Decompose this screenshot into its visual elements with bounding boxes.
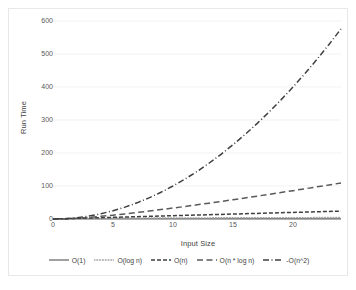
y-axis-title: Run Time [19, 88, 28, 148]
y-tick-label: 600 [25, 17, 53, 24]
legend-label: O(log n) [117, 257, 142, 264]
legend-swatch-icon [94, 256, 114, 264]
legend-item-1[interactable]: O(1) [49, 256, 86, 264]
x-tick-label: 20 [278, 221, 308, 228]
legend-swatch-icon [263, 256, 283, 264]
legend-item-4[interactable]: O(n * log n) [197, 256, 255, 264]
chart-legend: O(1)O(log n)O(n)O(n * log n)-O(n^2) [19, 252, 339, 268]
legend-swatch-icon [49, 256, 69, 264]
x-tick-label: 5 [98, 221, 128, 228]
legend-label: O(1) [72, 257, 86, 264]
x-tick-label: 15 [218, 221, 248, 228]
legend-label: -O(n^2) [286, 257, 309, 264]
series-line-4 [53, 183, 341, 219]
chart-card: 0100200300400500600 Run Time Input Size … [8, 8, 348, 276]
legend-swatch-icon [197, 256, 217, 264]
legend-item-5[interactable]: -O(n^2) [263, 256, 309, 264]
x-axis-title: Input Size [53, 239, 343, 248]
plot-area: 0100200300400500600 Run Time Input Size … [9, 9, 349, 277]
y-tick-label: 200 [25, 149, 53, 156]
legend-item-3[interactable]: O(n) [151, 256, 188, 264]
legend-label: O(n) [174, 257, 188, 264]
legend-item-2[interactable]: O(log n) [94, 256, 142, 264]
y-tick-label: 500 [25, 50, 53, 57]
y-axis-ticks: 0100200300400500600 [23, 9, 53, 277]
chart-canvas [9, 9, 349, 277]
legend-swatch-icon [151, 256, 171, 264]
y-tick-label: 100 [25, 182, 53, 189]
x-tick-label: 10 [158, 221, 188, 228]
x-tick-label: 0 [38, 221, 68, 228]
series-line-5 [53, 29, 341, 219]
y-tick-label: 300 [25, 116, 53, 123]
y-tick-label: 400 [25, 83, 53, 90]
legend-label: O(n * log n) [220, 257, 255, 264]
